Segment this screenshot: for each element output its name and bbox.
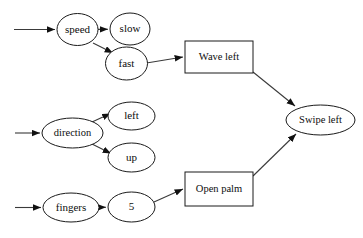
edge-direction-to-up	[92, 144, 111, 154]
node-swipe-left-ellipse	[286, 105, 355, 135]
node-left[interactable]: left	[108, 102, 155, 130]
node-direction[interactable]: direction	[42, 118, 103, 148]
node-wave-left-rect	[185, 41, 253, 73]
node-open-palm-rect	[185, 172, 253, 206]
edge-open-palm-to-swipe-left	[253, 134, 296, 176]
edge-five-to-open-palm	[154, 189, 183, 202]
node-slow-ellipse	[110, 13, 150, 45]
edge-wave-left-to-swipe-left	[253, 72, 295, 106]
node-up-ellipse	[108, 143, 155, 172]
edge-fast-to-wave-left	[147, 57, 184, 63]
node-up[interactable]: up	[108, 143, 155, 172]
node-five[interactable]: 5	[108, 192, 155, 222]
gesture-flow-diagram: speedslowfastdirectionleftupfingers5Wave…	[0, 0, 363, 238]
node-fingers-ellipse	[43, 193, 99, 222]
diagram-canvas: speedslowfastdirectionleftupfingers5Wave…	[0, 0, 363, 238]
node-direction-ellipse	[42, 118, 103, 148]
node-speed-ellipse	[57, 14, 98, 46]
node-five-ellipse	[108, 192, 155, 222]
edge-speed-to-fast	[93, 43, 113, 53]
node-fingers[interactable]: fingers	[43, 193, 99, 222]
node-open-palm[interactable]: Open palm	[185, 172, 253, 206]
node-swipe-left[interactable]: Swipe left	[286, 105, 355, 135]
node-speed[interactable]: speed	[57, 14, 98, 46]
node-fast-ellipse	[106, 47, 148, 80]
node-fast[interactable]: fast	[106, 47, 148, 80]
node-left-ellipse	[108, 102, 155, 130]
nodes-layer: speedslowfastdirectionleftupfingers5Wave…	[42, 13, 355, 222]
node-wave-left[interactable]: Wave left	[185, 41, 253, 73]
node-slow[interactable]: slow	[110, 13, 150, 45]
